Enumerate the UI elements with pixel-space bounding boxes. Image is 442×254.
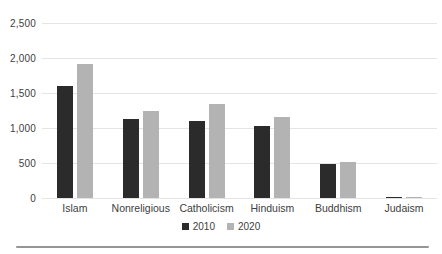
bar-judaism-2020 (406, 197, 422, 198)
legend-label: 2010 (193, 221, 215, 232)
bar-islam-2020 (77, 64, 93, 198)
bar-groups (42, 23, 437, 198)
bar-hinduism-2010 (254, 126, 270, 198)
bar-islam-2010 (57, 86, 73, 198)
bottom-divider (16, 246, 429, 248)
bar-catholicism-2020 (209, 104, 225, 198)
legend-item-2020: 2020 (227, 221, 260, 232)
bar-judaism-2010 (386, 197, 402, 198)
legend-label: 2020 (238, 221, 260, 232)
y-tick-label: 500 (19, 158, 36, 169)
y-tick-label: 1,000 (10, 123, 36, 134)
plot-area (42, 23, 437, 198)
x-axis-labels: IslamNonreligiousCatholicismHinduismBudd… (42, 202, 437, 214)
x-label-nonreligious: Nonreligious (108, 202, 174, 214)
y-tick-label: 2,000 (10, 53, 36, 64)
bar-chart: 05001,0001,5002,0002,500 IslamNonreligio… (0, 0, 442, 254)
y-tick-label: 1,500 (10, 88, 36, 99)
bar-nonreligious-2010 (123, 119, 139, 198)
bar-buddhism-2010 (320, 164, 336, 198)
y-tick-label: 2,500 (10, 18, 36, 29)
chart-legend: 20102020 (0, 221, 442, 232)
legend-swatch-icon (227, 223, 234, 230)
x-label-islam: Islam (42, 202, 108, 214)
bar-group-hinduism (239, 23, 305, 198)
x-label-hinduism: Hinduism (239, 202, 305, 214)
legend-swatch-icon (182, 223, 189, 230)
x-label-catholicism: Catholicism (174, 202, 240, 214)
bar-group-nonreligious (108, 23, 174, 198)
y-tick-label: 0 (30, 193, 36, 204)
bar-buddhism-2020 (340, 162, 356, 198)
legend-item-2010: 2010 (182, 221, 215, 232)
x-label-buddhism: Buddhism (305, 202, 371, 214)
bar-catholicism-2010 (189, 121, 205, 198)
bar-group-judaism (371, 23, 437, 198)
bar-group-buddhism (305, 23, 371, 198)
bar-nonreligious-2020 (143, 111, 159, 198)
bar-group-islam (42, 23, 108, 198)
x-label-judaism: Judaism (371, 202, 437, 214)
bar-hinduism-2020 (274, 117, 290, 198)
bar-group-catholicism (174, 23, 240, 198)
